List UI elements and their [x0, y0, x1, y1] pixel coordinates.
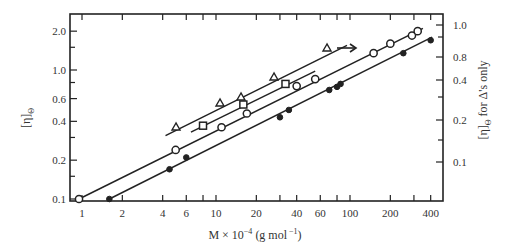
y2-axis-ticks: 0.10.20.40.81.0: [436, 19, 467, 168]
triangle-point: [172, 123, 180, 130]
filled-circle-point: [401, 50, 407, 56]
triangle-point: [270, 73, 278, 80]
y2-tick-label: 0.8: [453, 51, 467, 63]
fit-lines: [79, 28, 432, 199]
x-tick-label: 200: [382, 207, 399, 219]
x-tick-label: 6: [184, 207, 190, 219]
y-tick-label: 0.1: [52, 193, 66, 205]
y2-tick-label: 0.4: [453, 74, 467, 86]
open-circle-point: [414, 28, 421, 35]
x-tick-label: 10: [211, 207, 223, 219]
filled-circle-point: [183, 155, 189, 161]
y-tick-label: 1.0: [52, 64, 66, 76]
open-circle-point: [218, 124, 225, 131]
x-tick-label: 1: [79, 207, 85, 219]
filled-circle-point: [277, 114, 283, 120]
filled-circle-point: [428, 37, 434, 43]
triangle-point: [216, 99, 224, 106]
filled-circle-point: [286, 107, 292, 113]
triangle-point: [323, 44, 331, 51]
open-circle-point: [370, 50, 377, 57]
y-tick-label: 2.0: [52, 25, 66, 37]
square-point: [200, 122, 207, 129]
filled-circle-point: [167, 166, 173, 172]
fit-line: [109, 37, 432, 199]
open-circle-point: [312, 76, 319, 83]
y-tick-label: 0.2: [52, 154, 66, 166]
x-tick-label: 100: [342, 207, 359, 219]
y2-tick-label: 0.1: [453, 156, 467, 168]
triangle-point: [237, 93, 245, 100]
filled-circle-point: [107, 196, 113, 202]
y2-tick-label: 1.0: [453, 19, 467, 31]
x-tick-label: 60: [315, 207, 327, 219]
x-tick-label: 20: [251, 207, 263, 219]
square-point: [282, 80, 289, 87]
data-points: [75, 28, 433, 203]
y-tick-label: 0.4: [52, 115, 66, 127]
x-axis-ticks: 124610204060100200400: [79, 14, 439, 219]
y2-tick-label: 0.2: [453, 114, 467, 126]
open-circle-point: [172, 146, 179, 153]
x-tick-label: 2: [120, 207, 126, 219]
chart: 124610204060100200400 0.10.20.40.61.02.0…: [0, 0, 509, 251]
y2-axis-label: [η]Θ for Δ's only: [476, 61, 493, 140]
open-circle-point: [75, 195, 82, 202]
x-tick-label: 40: [291, 207, 303, 219]
open-circle-point: [293, 83, 300, 90]
fit-line: [191, 71, 315, 132]
open-circle-point: [243, 110, 250, 117]
filled-circle-point: [326, 87, 332, 93]
x-tick-label: 400: [422, 207, 439, 219]
square-point: [240, 101, 247, 108]
x-axis-label: M × 10−4 (g mol −1): [208, 227, 301, 242]
y-tick-label: 0.6: [52, 93, 66, 105]
filled-circle-point: [338, 81, 344, 87]
y-axis-label: [η]Θ: [19, 108, 36, 128]
open-circle-point: [387, 40, 394, 47]
y-axis-ticks: 0.10.20.40.61.02.0: [52, 25, 77, 205]
x-tick-label: 4: [160, 207, 166, 219]
fit-line: [166, 45, 347, 135]
